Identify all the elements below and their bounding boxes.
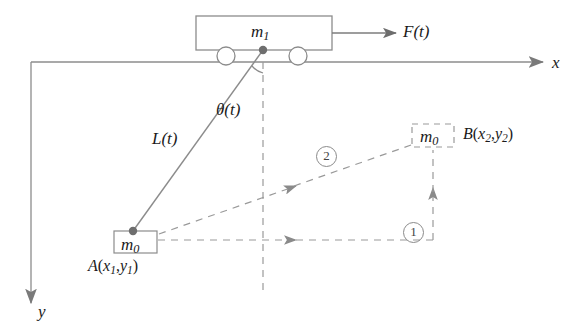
path-two-diagonal-tail <box>294 144 414 186</box>
path-two-diagonal-segment <box>159 186 296 234</box>
point-a-label: A(x1,y1) <box>88 258 138 277</box>
pivot-dot <box>259 46 267 54</box>
theta-angle-label: θ(t) <box>216 101 240 118</box>
force-label: F(t) <box>403 23 429 40</box>
step-marker-2: 2 <box>316 146 337 167</box>
pendulum-group <box>133 46 267 291</box>
cart-wheel-right <box>289 47 307 65</box>
mass-b-label: m0 <box>420 128 438 148</box>
cart-mass-label: m1 <box>251 23 269 43</box>
mass-a-label: m0 <box>121 236 139 256</box>
path-two-group <box>159 144 414 234</box>
cart-group <box>196 16 396 65</box>
cart-wheel-left <box>217 47 235 65</box>
y-axis-label: y <box>38 303 46 320</box>
diagram-canvas <box>0 0 588 328</box>
pendulum-length-label: L(t) <box>152 130 178 147</box>
x-axis-label: x <box>552 54 560 71</box>
theta-arc <box>252 66 263 73</box>
mass-a-attach-dot <box>129 227 137 235</box>
step-marker-1: 1 <box>403 222 424 243</box>
path-one-group <box>158 150 433 240</box>
point-b-label: B(x2,y2) <box>463 126 513 145</box>
physics-diagram: m1 F(t) x y θ(t) L(t) m0 A(x1,y1) m0 B(x… <box>0 0 588 328</box>
